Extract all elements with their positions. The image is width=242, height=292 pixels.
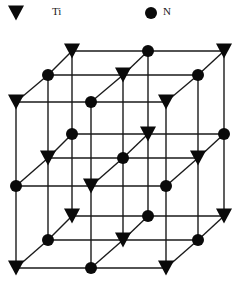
n-atom-circle-icon (10, 180, 22, 192)
bond-depth (166, 158, 198, 186)
n-atom-circle-icon (66, 128, 78, 140)
bond-depth (16, 158, 48, 186)
legend: TiN (8, 5, 171, 21)
n-atom-circle-icon (142, 210, 154, 222)
n-atom-circle-icon (42, 234, 54, 246)
n-atom-circle-icon (192, 234, 204, 246)
n-atom-circle-icon (42, 69, 54, 81)
legend-item-n: N (145, 5, 171, 19)
n-atom-circle-icon (192, 69, 204, 81)
bond-depth (91, 75, 123, 102)
n-atom-circle-icon (117, 152, 129, 164)
legend-circle-icon (145, 7, 157, 19)
n-atom-circle-icon (142, 45, 154, 57)
n-atom-circle-icon (160, 180, 172, 192)
legend-label: N (163, 5, 171, 17)
tin-crystal-lattice-diagram: TiN (0, 0, 242, 292)
n-atom-circle-icon (85, 96, 97, 108)
bond-depth (91, 240, 123, 268)
legend-label: Ti (52, 5, 61, 17)
legend-item-ti: Ti (8, 5, 61, 21)
n-atom-circle-icon (218, 128, 230, 140)
n-atom-circle-icon (85, 262, 97, 274)
legend-triangle-down-icon (8, 6, 24, 21)
